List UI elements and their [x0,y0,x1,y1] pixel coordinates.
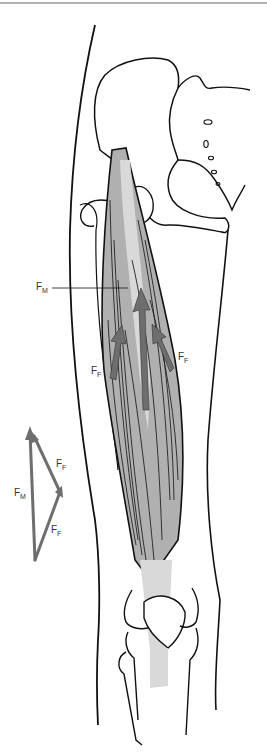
leg-outline-right [207,230,228,710]
label-ff-triangle-top: FF [56,459,66,471]
label-ff-triangle-bottom: FF [51,525,61,537]
vector-triangle [30,432,60,560]
fm-vector [30,432,35,560]
label-ff-left: FF [91,366,101,378]
thigh-anatomy-diagram [0,0,267,752]
label-fm-main: FM [36,282,48,294]
sacrum [178,76,250,210]
label-ff-right: FF [178,352,188,364]
fibula [119,652,142,745]
label-fm-triangle: FM [14,488,26,500]
patellar-tendon [150,648,168,688]
